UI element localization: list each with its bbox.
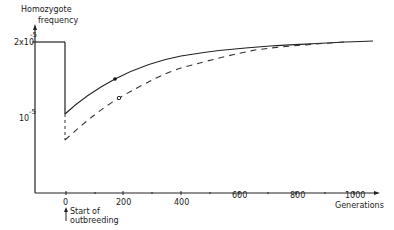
open-marker (117, 96, 120, 99)
y-axis-label-line2: frequency (38, 16, 78, 25)
x-axis-arrow-icon (374, 191, 380, 195)
chart-canvas (0, 0, 394, 230)
y-tick-mid-exponent: -5 (29, 109, 36, 116)
x-tick-200: 200 (116, 198, 131, 207)
x-tick-400: 400 (174, 198, 189, 207)
annotation-line1: Start of (70, 207, 100, 216)
series-dashed-line (65, 42, 345, 140)
x-axis-label: Generations (335, 201, 384, 210)
annotation-line2: outbreeding (70, 216, 119, 225)
up-arrow-icon (64, 207, 68, 212)
filled-marker (113, 77, 117, 81)
y-tick-top-exponent: -5 (30, 32, 37, 39)
y-axis-label-line1: Homozygote (21, 5, 72, 14)
x-tick-800: 800 (290, 191, 305, 200)
y-tick-mid-label: 10 (19, 114, 29, 123)
x-tick-1000: 1000 (345, 191, 365, 200)
x-tick-0: 0 (63, 198, 68, 207)
x-tick-600: 600 (232, 191, 247, 200)
y-tick-top-label: 2x10 (14, 38, 34, 47)
